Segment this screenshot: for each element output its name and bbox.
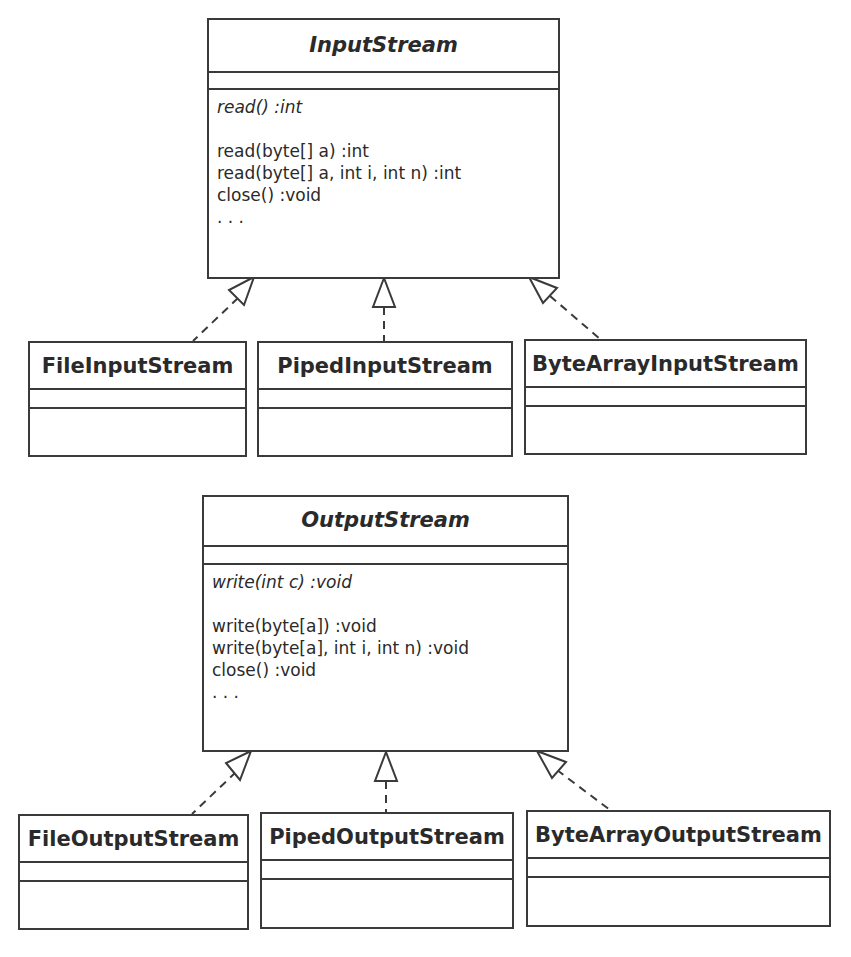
attributes-compartment <box>528 857 829 878</box>
class-name: ByteArrayInputStream <box>526 341 805 386</box>
operation: close() :void <box>212 659 567 681</box>
attributes-compartment <box>209 71 558 90</box>
class-name: PipedInputStream <box>259 343 511 388</box>
attributes-compartment <box>20 861 247 882</box>
realization-arrow-bytearrayoutputstream <box>537 751 610 810</box>
class-fileoutputstream: FileOutputStream <box>18 814 249 930</box>
class-name: ByteArrayOutputStream <box>528 812 829 857</box>
class-name: OutputStream <box>204 497 567 545</box>
attributes-compartment <box>526 386 805 407</box>
ellipsis: . . . <box>212 681 567 703</box>
realization-arrow-pipedinputstream <box>373 278 395 341</box>
operation-abstract: write(int c) :void <box>212 571 567 593</box>
ellipsis: . . . <box>217 206 558 228</box>
realization-arrow-pipedoutputstream <box>375 752 397 814</box>
operation: close() :void <box>217 184 558 206</box>
class-bytearrayoutputstream: ByteArrayOutputStream <box>526 810 831 927</box>
class-name: PipedOutputStream <box>262 814 512 859</box>
realization-arrow-fileinputstream <box>193 277 254 341</box>
class-outputstream: OutputStream write(int c) :void write(by… <box>202 495 569 752</box>
operations-compartment: write(int c) :void write(byte[a]) :void … <box>204 565 567 703</box>
attributes-compartment <box>204 545 567 565</box>
class-name: InputStream <box>209 20 558 71</box>
class-pipedoutputstream: PipedOutputStream <box>260 812 514 929</box>
class-inputstream: InputStream read() :int read(byte[] a) :… <box>207 18 560 279</box>
attributes-compartment <box>262 859 512 880</box>
operation: read(byte[] a) :int <box>217 140 558 162</box>
operation: read(byte[] a, int i, int n) :int <box>217 162 558 184</box>
operation-abstract: read() :int <box>217 96 558 118</box>
class-bytearrayinputstream: ByteArrayInputStream <box>524 339 807 455</box>
class-pipedinputstream: PipedInputStream <box>257 341 513 457</box>
realization-arrow-fileoutputstream <box>192 751 251 814</box>
operations-compartment: read() :int read(byte[] a) :int read(byt… <box>209 90 558 228</box>
operation: write(byte[a]) :void <box>212 615 567 637</box>
class-name: FileInputStream <box>30 343 245 388</box>
class-fileinputstream: FileInputStream <box>28 341 247 457</box>
operation: write(byte[a], int i, int n) :void <box>212 637 567 659</box>
realization-arrow-bytearrayinputstream <box>529 277 600 339</box>
attributes-compartment <box>30 388 245 409</box>
class-name: FileOutputStream <box>20 816 247 861</box>
attributes-compartment <box>259 388 511 409</box>
